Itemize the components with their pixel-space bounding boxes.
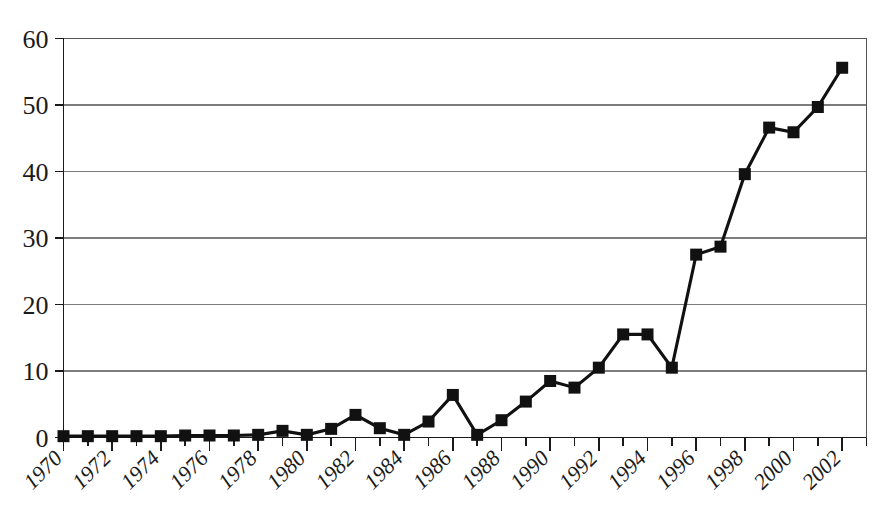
data-point-marker — [715, 241, 727, 253]
data-point-marker — [277, 425, 289, 437]
y-tick-label: 50 — [23, 91, 49, 120]
data-point-marker — [447, 389, 459, 401]
data-point-marker — [520, 396, 532, 408]
x-tick-label: 1998 — [700, 445, 749, 494]
x-tick-label: 1978 — [213, 445, 262, 494]
data-point-marker — [423, 416, 435, 428]
x-tick-label: 1984 — [359, 445, 408, 494]
data-point-marker — [496, 414, 508, 426]
data-point-marker — [131, 430, 143, 442]
data-point-marker — [58, 430, 70, 442]
y-tick-label: 30 — [23, 224, 49, 253]
data-point-marker — [739, 168, 751, 180]
x-tick-label: 2002 — [797, 445, 846, 494]
data-point-marker — [228, 430, 240, 442]
x-tick-label: 1972 — [67, 445, 116, 494]
y-tick-label: 60 — [23, 25, 49, 54]
x-tick-label: 2000 — [748, 445, 797, 494]
chart-canvas: 0102030405060 19701972197419761978198019… — [0, 0, 884, 514]
data-point-marker — [179, 430, 191, 442]
data-point-marker — [569, 382, 581, 394]
x-tick-label: 1990 — [505, 445, 554, 494]
y-tick-label: 10 — [23, 357, 49, 386]
x-tick-label: 1992 — [554, 445, 603, 494]
x-tick-label: 1994 — [602, 445, 651, 494]
y-tick-label: 40 — [23, 158, 49, 187]
x-axis-tick-labels: 1970197219741976197819801982198419861988… — [18, 445, 845, 494]
x-tick-label: 1976 — [164, 445, 213, 494]
data-point-marker — [350, 409, 362, 421]
data-point-marker — [252, 429, 264, 441]
gridlines — [64, 39, 867, 372]
data-point-marker — [642, 328, 654, 340]
x-tick-label: 1970 — [18, 445, 67, 494]
x-tick-label: 1980 — [262, 445, 311, 494]
x-tick-label: 1986 — [408, 445, 457, 494]
y-axis-ticks — [55, 39, 64, 438]
x-tick-label: 1996 — [651, 445, 700, 494]
line-chart: 0102030405060 19701972197419761978198019… — [0, 0, 884, 514]
data-point-marker — [593, 362, 605, 374]
data-point-marker — [325, 423, 337, 435]
data-point-marker — [812, 101, 824, 113]
x-tick-label: 1974 — [116, 445, 165, 494]
data-point-marker — [617, 328, 629, 340]
data-point-marker — [690, 249, 702, 261]
x-tick-label: 1982 — [310, 445, 359, 494]
data-point-markers — [58, 62, 849, 442]
data-point-marker — [836, 62, 848, 74]
y-tick-label: 20 — [23, 291, 49, 320]
data-point-marker — [763, 122, 775, 134]
x-tick-label: 1988 — [456, 445, 505, 494]
data-point-marker — [666, 362, 678, 374]
data-point-marker — [106, 430, 118, 442]
data-point-marker — [301, 429, 313, 441]
data-point-marker — [544, 375, 556, 387]
y-axis-tick-labels: 0102030405060 — [23, 25, 49, 453]
data-point-marker — [155, 430, 167, 442]
data-point-marker — [471, 429, 483, 441]
data-point-marker — [204, 430, 216, 442]
data-point-marker — [82, 430, 94, 442]
data-point-marker — [788, 126, 800, 138]
data-point-marker — [398, 429, 410, 441]
data-point-marker — [374, 422, 386, 434]
